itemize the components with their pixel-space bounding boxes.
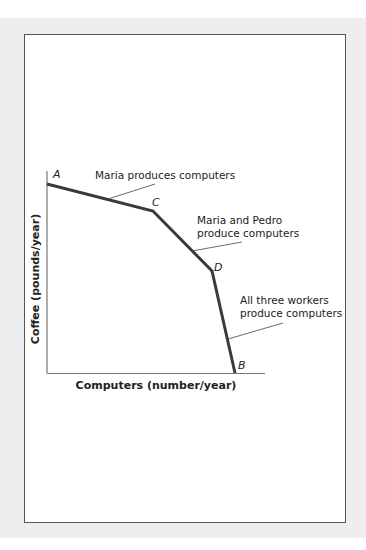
ppf-chart: A C D B Maria produces computers Maria a… xyxy=(0,0,366,550)
point-label-c: C xyxy=(152,196,160,209)
ppf-curve xyxy=(47,184,235,373)
point-label-a: A xyxy=(52,168,61,181)
point-label-d: D xyxy=(214,261,222,274)
annotation-all-three-line1: All three workers xyxy=(240,294,329,306)
leader-line-2 xyxy=(192,242,242,251)
x-axis-label: Computers (number/year) xyxy=(76,379,237,392)
y-axis-label: Coffee (pounds/year) xyxy=(29,214,42,344)
leader-line-1 xyxy=(108,184,155,199)
annotation-maria: Maria produces computers xyxy=(95,169,235,181)
annotation-all-three-line2: produce computers xyxy=(240,307,342,319)
leader-line-3 xyxy=(228,323,283,339)
annotation-maria-pedro-line1: Maria and Pedro xyxy=(197,214,282,226)
annotation-maria-pedro-line2: produce computers xyxy=(197,227,299,239)
point-label-b: B xyxy=(238,359,246,372)
